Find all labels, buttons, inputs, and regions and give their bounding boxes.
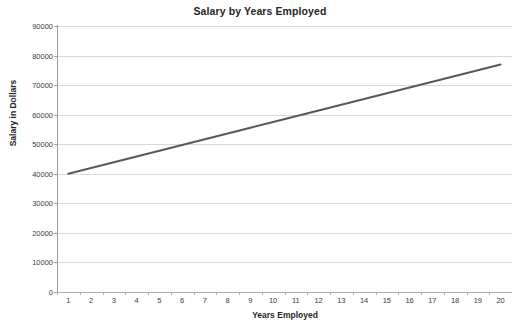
x-axis-tick-mark	[103, 292, 104, 295]
x-axis-tick-label: 1	[57, 296, 79, 305]
x-axis-tick-label: 19	[467, 296, 489, 305]
x-axis-tick-mark	[376, 292, 377, 295]
x-axis-tick-labels: 1234567891011121314151617181920	[57, 296, 512, 310]
x-axis-tick-mark	[421, 292, 422, 295]
x-axis-tick-mark	[444, 292, 445, 295]
y-axis-tick-label: 50000	[9, 140, 53, 149]
y-axis-tick-mark	[54, 56, 57, 57]
x-axis-tick-mark	[171, 292, 172, 295]
x-axis-tick-label: 8	[217, 296, 239, 305]
x-axis-tick-mark	[307, 292, 308, 295]
y-axis-tick-labels: 0100002000030000400005000060000700008000…	[5, 26, 53, 292]
chart-container: Salary by Years Employed Salary in Dolla…	[0, 0, 520, 328]
x-axis-tick-label: 9	[239, 296, 261, 305]
x-axis-tick-label: 6	[171, 296, 193, 305]
x-axis-tick-label: 11	[285, 296, 307, 305]
y-axis-tick-label: 80000	[9, 52, 53, 61]
y-axis-tick-label: 40000	[9, 170, 53, 179]
x-axis-tick-label: 12	[308, 296, 330, 305]
y-axis-tick-label: 70000	[9, 81, 53, 90]
x-axis-tick-label: 4	[126, 296, 148, 305]
x-axis-tick-mark	[216, 292, 217, 295]
y-axis-tick-mark	[54, 144, 57, 145]
x-axis-tick-mark	[262, 292, 263, 295]
x-axis-tick-label: 20	[490, 296, 512, 305]
x-axis-tick-mark	[330, 292, 331, 295]
x-axis-tick-mark	[489, 292, 490, 295]
series-line	[68, 64, 500, 173]
x-axis-tick-mark	[148, 292, 149, 295]
y-axis-tick-label: 30000	[9, 199, 53, 208]
x-axis-tick-label: 17	[421, 296, 443, 305]
x-axis-tick-label: 13	[330, 296, 352, 305]
x-axis-tick-label: 2	[80, 296, 102, 305]
y-axis-tick-mark	[54, 115, 57, 116]
x-axis-tick-label: 18	[444, 296, 466, 305]
x-axis-tick-label: 3	[103, 296, 125, 305]
x-axis-tick-label: 10	[262, 296, 284, 305]
x-axis-title: Years Employed	[55, 310, 515, 320]
x-axis-tick-mark	[398, 292, 399, 295]
x-axis-tick-mark	[285, 292, 286, 295]
y-axis-tick-label: 0	[9, 288, 53, 297]
x-axis-tick-label: 16	[399, 296, 421, 305]
x-axis-tick-mark	[57, 292, 58, 295]
y-axis-tick-mark	[54, 203, 57, 204]
x-axis-tick-mark	[194, 292, 195, 295]
x-axis-tick-mark	[467, 292, 468, 295]
y-axis-tick-mark	[54, 262, 57, 263]
x-axis-tick-mark	[125, 292, 126, 295]
y-axis-tick-mark	[54, 85, 57, 86]
y-axis-tick-mark	[54, 233, 57, 234]
line-series	[57, 26, 512, 292]
y-axis-tick-label: 20000	[9, 229, 53, 238]
y-axis-tick-mark	[54, 174, 57, 175]
x-axis-tick-mark	[239, 292, 240, 295]
x-axis-tick-mark	[80, 292, 81, 295]
x-axis-tick-label: 14	[353, 296, 375, 305]
y-axis-tick-label: 90000	[9, 22, 53, 31]
chart-title: Salary by Years Employed	[0, 5, 520, 17]
x-axis-tick-label: 5	[148, 296, 170, 305]
y-axis-tick-label: 60000	[9, 111, 53, 120]
y-axis-tick-label: 10000	[9, 258, 53, 267]
x-axis-tick-label: 7	[194, 296, 216, 305]
y-axis-tick-mark	[54, 26, 57, 27]
x-axis-tick-label: 15	[376, 296, 398, 305]
x-axis-tick-mark	[353, 292, 354, 295]
